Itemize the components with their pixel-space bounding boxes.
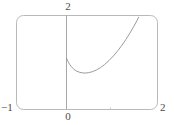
x-axis-max-label: 2 (160, 102, 174, 113)
plot-frame (17, 16, 158, 110)
origin-label: 0 (61, 111, 75, 122)
plot-canvas (0, 0, 174, 125)
y-axis-max-label: 2 (61, 1, 75, 12)
plot-figure: 2 0 −1 2 (0, 0, 174, 125)
x-axis-min-label: −1 (1, 102, 17, 113)
curve-path (67, 17, 139, 73)
